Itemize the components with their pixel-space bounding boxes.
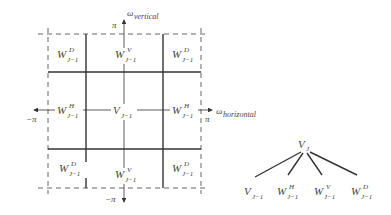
svg-text:J−1: J−1 (67, 56, 78, 64)
vertical-top-label: π (112, 20, 117, 30)
horizontal-axis-symbol: ω (216, 106, 222, 116)
svg-text:H: H (183, 102, 190, 110)
svg-text:J−1: J−1 (252, 193, 263, 201)
svg-text:D: D (183, 160, 189, 168)
svg-text:W: W (115, 168, 125, 180)
tree-child-diagonal: W D J−1 (351, 183, 372, 201)
cell-middle-left: W H J−1 (55, 102, 83, 120)
svg-text:J−1: J−1 (69, 170, 80, 178)
cell-bottom-left: W D J−1 (57, 160, 87, 178)
svg-text:W: W (172, 48, 182, 60)
svg-text:J−1: J−1 (287, 193, 298, 201)
horizontal-left-label: −π (26, 114, 37, 124)
vertical-bottom-label: −π (105, 194, 116, 204)
svg-text:W: W (57, 48, 67, 60)
svg-text:V: V (127, 46, 132, 54)
tree-child-horizontal: W H J−1 (277, 183, 298, 201)
svg-text:J−1: J−1 (182, 112, 193, 120)
tree-child-vertical: W V J−1 (314, 183, 335, 201)
wavelet-diagram: ω vertical π −π ω horizontal π −π W D J−… (0, 0, 391, 215)
cell-top-left: W D J−1 (55, 46, 85, 64)
tree-root: V J (298, 138, 310, 153)
svg-text:W: W (57, 104, 67, 116)
svg-text:J−1: J−1 (324, 193, 335, 201)
svg-text:J−1: J−1 (125, 176, 136, 184)
svg-text:J−1: J−1 (125, 56, 136, 64)
svg-text:D: D (362, 183, 368, 191)
svg-text:H: H (288, 183, 295, 191)
decomposition-tree: V J V J−1 W H J−1 W V J−1 W D J−1 (244, 138, 372, 201)
horizontal-right-label: π (205, 114, 210, 124)
svg-text:J−1: J−1 (121, 112, 132, 120)
svg-text:W: W (172, 162, 182, 174)
tree-edges (255, 152, 357, 177)
svg-text:V: V (127, 166, 132, 174)
vertical-axis-symbol: ω (127, 8, 133, 18)
svg-text:W: W (59, 162, 69, 174)
svg-text:H: H (68, 102, 75, 110)
svg-text:W: W (172, 104, 182, 116)
svg-text:W: W (277, 185, 287, 197)
svg-text:W: W (314, 185, 324, 197)
cell-middle-right: W H J−1 (170, 102, 198, 120)
svg-text:J−1: J−1 (182, 56, 193, 64)
vertical-axis-subscript: vertical (134, 12, 159, 21)
cell-bottom-center: W V J−1 (113, 166, 143, 184)
svg-text:V: V (298, 138, 306, 150)
svg-text:V: V (326, 183, 331, 191)
cell-top-right: W D J−1 (170, 46, 200, 64)
cell-bottom-right: W D J−1 (170, 160, 200, 178)
svg-text:J−1: J−1 (182, 170, 193, 178)
cell-center: V J−1 (111, 104, 137, 120)
svg-text:J: J (306, 145, 310, 153)
horizontal-axis-subscript: horizontal (223, 110, 257, 119)
svg-text:D: D (70, 160, 76, 168)
cell-top-center: W V J−1 (113, 46, 143, 64)
svg-text:W: W (351, 185, 361, 197)
tree-child-approx: V J−1 (244, 185, 263, 201)
svg-text:V: V (244, 185, 252, 197)
svg-text:D: D (183, 46, 189, 54)
svg-text:D: D (68, 46, 74, 54)
grid-cell-labels: W D J−1 W V J−1 W D J−1 W H J−1 V J−1 (55, 46, 200, 184)
svg-text:W: W (115, 48, 125, 60)
svg-text:J−1: J−1 (67, 112, 78, 120)
svg-text:J−1: J−1 (361, 193, 372, 201)
